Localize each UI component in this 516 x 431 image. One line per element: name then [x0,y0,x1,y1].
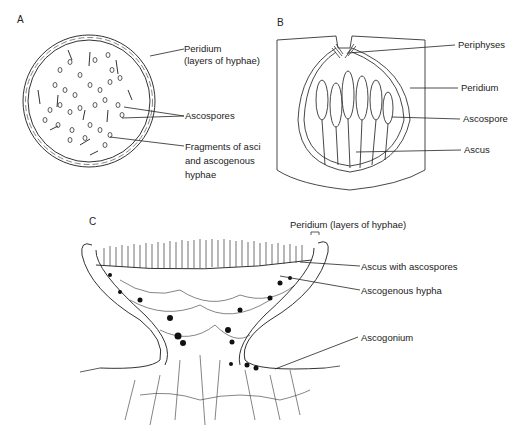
label-c-ascogonium: Ascogonium [361,332,413,344]
label-c-ascogenous-hypha: Ascogenous hypha [361,285,442,297]
label-c-peridium: Peridium (layers of hyphae) [290,219,406,231]
panel-c-apothecium-drawing [0,0,516,431]
label-c-ascus-with-ascospores: Ascus with ascospores [361,261,458,273]
